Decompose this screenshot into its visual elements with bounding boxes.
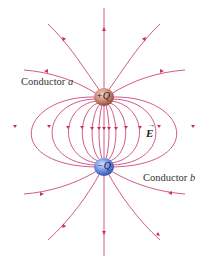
field-line	[111, 101, 140, 163]
field-lines	[24, 8, 185, 256]
field-line	[112, 97, 177, 167]
field-line	[99, 105, 102, 159]
field-line	[31, 97, 96, 167]
field-line	[106, 105, 109, 159]
vector-arrow-icon: →	[147, 120, 155, 129]
field-line	[48, 173, 100, 240]
field-line	[24, 171, 97, 194]
conductor-b-label: Conductor b	[143, 172, 195, 183]
negative-charge-label: −Q	[97, 160, 111, 171]
positive-charge-label: +Q	[96, 90, 110, 101]
field-line	[111, 70, 185, 94]
field-line	[108, 173, 160, 240]
field-line	[68, 101, 97, 163]
conductor-a-label: Conductor a	[21, 76, 73, 87]
field-line	[108, 24, 160, 91]
electric-field-label: → E	[146, 127, 153, 139]
field-diagram	[0, 0, 210, 264]
